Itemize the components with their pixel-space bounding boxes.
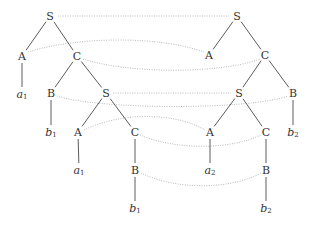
tree-edge (78, 139, 79, 163)
correspondence-link-a (84, 117, 205, 131)
tree-node-b: B (131, 164, 139, 177)
correspondence-link-c (83, 59, 260, 70)
tree-node-labels: SACa1BSb1ACa1Bb1SACSBACb2a2Bb2 (16, 10, 298, 216)
tree-node-b: B (262, 164, 270, 177)
leaf-node-b2: b2 (287, 126, 299, 140)
tree-edge (243, 61, 261, 87)
tree-node-a: A (204, 49, 214, 62)
tree-edge (82, 99, 102, 127)
tree-node-c: C (73, 50, 81, 63)
correspondence-link-b (141, 173, 261, 186)
correspondence-link-b (57, 96, 288, 107)
tree-edge (243, 99, 262, 126)
tree-node-s: S (233, 10, 241, 23)
correspondence-link-c (140, 135, 261, 146)
tree-node-c: C (261, 49, 269, 62)
leaf-node-b2: b2 (260, 202, 272, 216)
tree-node-a: A (17, 50, 27, 63)
tree-node-a: A (205, 126, 215, 139)
leaf-node-b1: b1 (45, 126, 57, 140)
tree-edge (26, 22, 46, 51)
leaf-node-a1: a1 (16, 88, 27, 102)
tree-node-b: B (47, 87, 55, 100)
tree-edge (110, 99, 131, 127)
tree-node-c: C (131, 126, 139, 139)
tree-node-a: A (73, 126, 83, 139)
tree-edge (241, 22, 261, 50)
tree-edge (213, 22, 233, 50)
parse-tree-correspondence-diagram: SACa1BSb1ACa1Bb1SACSBACb2a2Bb2 (0, 0, 312, 227)
tree-edge (214, 99, 235, 127)
leaf-node-b1: b1 (129, 202, 141, 216)
tree-node-s: S (102, 87, 110, 100)
tree-edges (22, 22, 293, 201)
tree-node-c: C (262, 126, 270, 139)
tree-edge (269, 61, 289, 88)
correspondence-link-a (28, 40, 204, 52)
tree-edge (81, 62, 101, 88)
tree-edge (55, 62, 73, 88)
tree-node-s: S (46, 10, 54, 23)
tree-edge (54, 22, 73, 50)
leaf-node-a2: a2 (204, 164, 215, 178)
diagram-canvas: SACa1BSb1ACa1Bb1SACSBACb2a2Bb2 (0, 0, 312, 227)
tree-node-b: B (289, 87, 297, 100)
tree-node-s: S (235, 87, 243, 100)
leaf-node-a1: a1 (73, 164, 84, 178)
